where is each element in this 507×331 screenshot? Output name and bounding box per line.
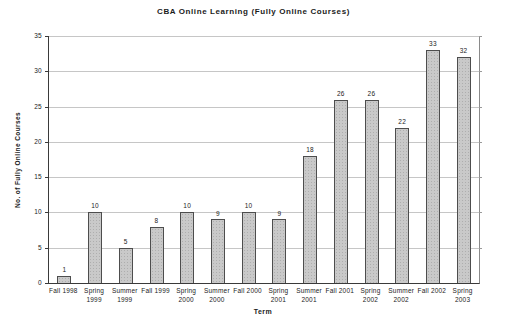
- x-axis-tick-label-line: Spring: [261, 287, 295, 296]
- bar: [119, 248, 133, 283]
- x-axis-tick-label: Spring1999: [77, 287, 111, 304]
- x-axis-tick-label-line: 2000: [200, 296, 234, 305]
- x-axis-tick-label-line: Summer: [292, 287, 326, 296]
- gridline: [49, 142, 479, 143]
- bar-value-label: 32: [452, 47, 476, 54]
- x-axis-tick-label-line: 2001: [292, 296, 326, 305]
- x-axis-tick-label-line: Spring: [446, 287, 480, 296]
- bar: [180, 212, 194, 283]
- bar-value-label: 5: [114, 238, 138, 245]
- right-border-tick: [479, 71, 482, 72]
- bar-value-label: 18: [298, 146, 322, 153]
- y-axis-tick-label: 20: [22, 138, 42, 145]
- x-axis-tick-label: Spring2003: [446, 287, 480, 304]
- bar: [457, 57, 471, 283]
- x-axis-tick-label: Summer2001: [292, 287, 326, 304]
- y-axis-tick-label: 5: [22, 244, 42, 251]
- bar-value-label: 9: [206, 210, 230, 217]
- y-axis-tick-label: 35: [22, 32, 42, 39]
- x-axis-tick-label: Spring2002: [354, 287, 388, 304]
- right-border-tick: [479, 142, 482, 143]
- x-axis-tick-label: Fall 2000: [231, 287, 265, 296]
- x-axis-tick-label-line: Fall 2000: [231, 287, 265, 296]
- bar: [88, 212, 102, 283]
- bar: [150, 227, 164, 283]
- x-axis-tick-label: Spring2000: [169, 287, 203, 304]
- x-axis-tick-label: Summer1999: [108, 287, 142, 304]
- chart-frame: CBA Online Learning (Fully Online Course…: [0, 0, 507, 331]
- right-border-tick: [479, 212, 482, 213]
- x-axis-tick-label-line: 2001: [261, 296, 295, 305]
- bar: [334, 100, 348, 283]
- plot-area: 11058109109182626223332: [48, 36, 480, 284]
- bar-value-label: 10: [175, 202, 199, 209]
- x-axis-tick-label-line: Fall 1998: [46, 287, 80, 296]
- y-axis-tick: [45, 283, 49, 284]
- x-axis-tick-label-line: Spring: [169, 287, 203, 296]
- bar-value-label: 10: [83, 202, 107, 209]
- x-axis-tick-label-line: 1999: [108, 296, 142, 305]
- bar-value-label: 26: [329, 90, 353, 97]
- chart-title: CBA Online Learning (Fully Online Course…: [0, 7, 507, 16]
- bar: [272, 219, 286, 283]
- x-axis-tick-label: Fall 2002: [415, 287, 449, 296]
- x-axis-tick-label-line: 2002: [354, 296, 388, 305]
- bar-value-label: 8: [145, 217, 169, 224]
- x-axis-tick-label-line: Summer: [108, 287, 142, 296]
- bar: [242, 212, 256, 283]
- gridline: [49, 36, 479, 37]
- bar-value-label: 33: [421, 40, 445, 47]
- bar: [365, 100, 379, 283]
- x-axis-tick-label: Fall 1998: [46, 287, 80, 296]
- y-axis-tick-label: 10: [22, 208, 42, 215]
- x-axis-tick-label-line: 2002: [384, 296, 418, 305]
- bar-value-label: 10: [237, 202, 261, 209]
- gridline: [49, 177, 479, 178]
- bar-value-label: 26: [360, 90, 384, 97]
- bar: [211, 219, 225, 283]
- x-axis-tick-label-line: Spring: [354, 287, 388, 296]
- x-axis-tick-label: Summer2000: [200, 287, 234, 304]
- y-axis-tick-label: 0: [22, 279, 42, 286]
- x-axis-tick-label: Fall 1999: [139, 287, 173, 296]
- x-axis-tick-label-line: Fall 2001: [323, 287, 357, 296]
- bar-value-label: 9: [267, 210, 291, 217]
- x-axis-tick-label-line: 2003: [446, 296, 480, 305]
- y-axis-tick-label: 30: [22, 67, 42, 74]
- bar-value-label: 1: [52, 266, 76, 273]
- gridline: [49, 248, 479, 249]
- gridline: [49, 71, 479, 72]
- bar: [57, 276, 71, 283]
- bar: [395, 128, 409, 283]
- gridline: [49, 212, 479, 213]
- x-axis-tick-label-line: Summer: [384, 287, 418, 296]
- bar: [426, 50, 440, 283]
- right-border-tick: [479, 107, 482, 108]
- bar-value-label: 22: [390, 118, 414, 125]
- x-axis-tick-label-line: Fall 1999: [139, 287, 173, 296]
- x-axis-tick-label: Summer2002: [384, 287, 418, 304]
- bar: [303, 156, 317, 283]
- x-axis-title: Term: [48, 308, 478, 315]
- x-axis-tick-label-line: Summer: [200, 287, 234, 296]
- y-axis-tick-label: 15: [22, 173, 42, 180]
- x-axis-tick-label-line: Spring: [77, 287, 111, 296]
- x-axis-tick-label: Fall 2001: [323, 287, 357, 296]
- x-axis-tick-label-line: Fall 2002: [415, 287, 449, 296]
- x-axis-tick-label-line: 1999: [77, 296, 111, 305]
- gridline: [49, 107, 479, 108]
- x-axis-tick-label: Spring2001: [261, 287, 295, 304]
- y-axis-title: No. of Fully Online Courses: [14, 112, 21, 208]
- right-border-tick: [479, 248, 482, 249]
- right-border-tick: [479, 36, 482, 37]
- x-axis-tick-label-line: 2000: [169, 296, 203, 305]
- y-axis-tick-label: 25: [22, 103, 42, 110]
- right-border-tick: [479, 177, 482, 178]
